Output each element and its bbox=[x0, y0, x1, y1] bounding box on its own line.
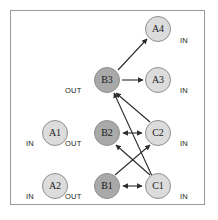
port-label-b2: OUT bbox=[65, 139, 81, 148]
node-c1[interactable]: C1 bbox=[145, 173, 171, 199]
node-b3-label: B3 bbox=[101, 75, 113, 85]
port-label-a4: IN bbox=[180, 36, 188, 45]
node-a3[interactable]: A3 bbox=[145, 67, 171, 93]
port-label-b3: OUT bbox=[65, 86, 81, 95]
node-c2-label: C2 bbox=[152, 128, 164, 138]
node-b1[interactable]: B1 bbox=[94, 173, 120, 199]
port-label-c1: IN bbox=[180, 192, 188, 201]
node-a1-label: A1 bbox=[49, 128, 61, 138]
node-a4[interactable]: A4 bbox=[145, 16, 171, 42]
node-b2[interactable]: B2 bbox=[94, 120, 120, 146]
node-a4-label: A4 bbox=[152, 24, 164, 34]
node-a2-label: A2 bbox=[49, 181, 61, 191]
port-label-a3: IN bbox=[180, 86, 188, 95]
node-c1-label: C1 bbox=[152, 181, 164, 191]
node-a3-label: A3 bbox=[152, 75, 164, 85]
port-label-b1: OUT bbox=[65, 192, 81, 201]
figure-canvas: A4 IN B3 OUT A3 IN A1 IN B2 OUT C2 IN A2… bbox=[0, 0, 218, 220]
node-b2-label: B2 bbox=[101, 128, 113, 138]
port-label-a1: IN bbox=[26, 139, 34, 148]
port-label-a2: IN bbox=[26, 192, 34, 201]
edge-b3-a4 bbox=[118, 39, 147, 70]
node-c2[interactable]: C2 bbox=[145, 120, 171, 146]
node-b1-label: B1 bbox=[101, 181, 113, 191]
port-label-c2: IN bbox=[180, 139, 188, 148]
node-b3[interactable]: B3 bbox=[94, 67, 120, 93]
